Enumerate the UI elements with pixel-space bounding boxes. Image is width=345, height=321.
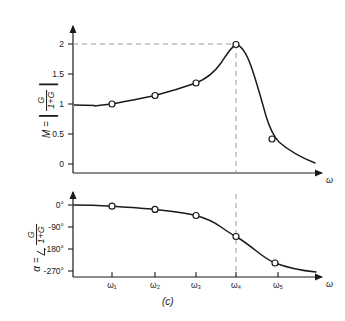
magnitude-marker-w5 <box>269 136 275 142</box>
phase-marker-w2 <box>152 206 158 212</box>
phase-plot: 0° -90° -180° -270° <box>44 192 322 290</box>
magnitude-label-bar-left: | <box>38 113 56 118</box>
figure-caption: (c) <box>162 296 174 307</box>
phase-ytick-0: 0° <box>56 200 64 210</box>
phase-label-fraction: G 1+G <box>27 224 47 245</box>
xtick-label-w5: ω₅ <box>273 280 283 290</box>
xtick-label-w4: ω₄ <box>231 280 242 290</box>
magnitude-label-lhs: M = <box>42 121 53 138</box>
magnitude-label-bar-right: | <box>38 82 56 87</box>
phase-ytick-minus90: -90° <box>48 222 64 232</box>
phase-marker-w1 <box>109 203 115 209</box>
magnitude-xaxis-name: ω <box>326 175 333 185</box>
phase-marker-w3 <box>193 213 199 219</box>
magnitude-ytick-0: 0 <box>59 159 64 169</box>
figure-container: 2 1.5 1 0.5 0 <box>0 0 345 321</box>
magnitude-label-denominator: 1+G <box>48 90 57 111</box>
magnitude-ytick-1: 1 <box>59 99 64 109</box>
phase-markers <box>109 203 278 266</box>
magnitude-marker-w4 <box>233 42 239 48</box>
phase-marker-w4 <box>233 234 239 240</box>
magnitude-yaxis-label: M = | G 1+G | <box>37 55 57 165</box>
phase-xaxis-name: ω <box>326 279 333 289</box>
magnitude-curve-leadin <box>74 105 95 106</box>
magnitude-y-ticks <box>68 44 73 164</box>
phase-label-denominator: 1+G <box>38 224 47 245</box>
magnitude-plot: 2 1.5 1 0.5 0 <box>52 26 322 173</box>
xtick-label-w3: ω₃ <box>191 280 201 290</box>
magnitude-curve <box>95 45 315 164</box>
xtick-label-w1: ω₁ <box>107 280 117 290</box>
magnitude-markers <box>109 42 275 143</box>
angle-icon <box>29 248 46 255</box>
phase-label-lhs: α = <box>32 257 43 271</box>
xtick-label-w2: ω₂ <box>150 280 160 290</box>
magnitude-marker-w3 <box>193 80 199 86</box>
magnitude-marker-w2 <box>152 93 158 99</box>
magnitude-marker-w1 <box>109 101 115 107</box>
phase-y-ticks <box>68 205 73 271</box>
magnitude-ytick-2: 2 <box>59 39 64 49</box>
phase-marker-w5 <box>272 260 278 266</box>
phase-yaxis-label: α = G 1+G <box>27 198 47 298</box>
magnitude-label-fraction: G 1+G <box>37 90 57 111</box>
phase-x-ticks <box>112 272 278 277</box>
